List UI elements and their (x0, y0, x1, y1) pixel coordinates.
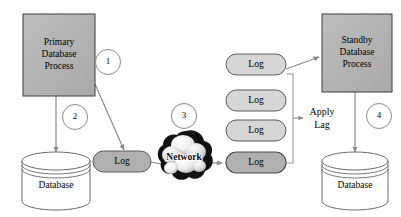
log-queue-item-2-label: Log (248, 95, 264, 105)
primary-process-label-line1: Primary (44, 37, 75, 47)
source-log-pill[interactable]: Log (93, 151, 151, 172)
log-queue-item-2[interactable]: Log (226, 90, 286, 111)
standby-process-label-line2: Database (340, 47, 375, 57)
apply-lag-line2: Lag (314, 119, 330, 130)
step-marker-4-label: 4 (377, 110, 382, 120)
diagram-canvas: Primary Database Process Standby Databas… (0, 0, 401, 217)
step-marker-3-label: 3 (182, 110, 187, 120)
standby-database-label: Database (338, 180, 373, 190)
network-cloud[interactable]: Network (158, 130, 213, 180)
log-queue-item-3-label: Log (248, 125, 264, 135)
step-marker-3: 3 (172, 104, 197, 129)
primary-process-label-line2: Database (42, 49, 77, 59)
log-queue-item-1-label: Log (248, 59, 264, 69)
log-queue: Log Log Log Log (226, 54, 286, 173)
arrow-log-to-standby (286, 57, 319, 69)
arrow-primary-to-log (95, 84, 124, 150)
step-marker-4: 4 (367, 104, 392, 129)
apply-lag-bracket (286, 74, 293, 163)
step-marker-2-label: 2 (73, 111, 78, 121)
log-queue-item-4[interactable]: Log (226, 152, 286, 173)
standby-database-cylinder[interactable]: Database (322, 152, 388, 210)
network-cloud-label: Network (166, 152, 202, 162)
log-queue-item-3[interactable]: Log (226, 120, 286, 141)
primary-database-label: Database (39, 180, 74, 190)
replication-diagram: Primary Database Process Standby Databas… (0, 0, 401, 217)
step-marker-1: 1 (96, 50, 121, 75)
log-queue-item-4-label: Log (248, 157, 264, 167)
log-queue-item-1[interactable]: Log (226, 54, 286, 75)
step-marker-1-label: 1 (106, 56, 111, 66)
primary-process-label-line3: Process (44, 61, 73, 71)
apply-lag-line1: Apply (310, 106, 335, 117)
apply-lag-label: Apply Lag (310, 106, 335, 130)
primary-database-cylinder[interactable]: Database (22, 152, 90, 210)
standby-process-label-line3: Process (342, 59, 371, 69)
primary-database-process[interactable]: Primary Database Process (23, 14, 95, 96)
step-marker-2: 2 (63, 105, 88, 130)
standby-database-process[interactable]: Standby Database Process (322, 14, 392, 92)
standby-process-label-line1: Standby (341, 35, 372, 45)
source-log-label: Log (114, 156, 130, 166)
